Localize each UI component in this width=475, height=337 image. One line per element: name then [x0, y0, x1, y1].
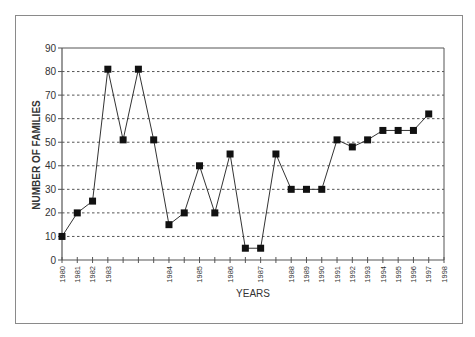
data-point-marker [211, 209, 218, 216]
data-point-marker [410, 127, 417, 134]
data-point-marker [334, 136, 341, 143]
data-point-marker [379, 127, 386, 134]
gridlines [62, 72, 444, 237]
y-tick-label: 80 [45, 66, 57, 77]
x-tick-label: 1995 [394, 266, 403, 283]
x-tick-label: 1987 [256, 266, 265, 283]
y-tick-label: 10 [45, 231, 57, 242]
x-tick-label: 1991 [333, 266, 342, 283]
x-tick-label: 1996 [409, 266, 418, 283]
data-point-marker [349, 143, 356, 150]
y-axis-title: NUMBER OF FAMILIES [31, 100, 42, 210]
data-point-marker [288, 186, 295, 193]
x-tick-label: 1984 [165, 266, 174, 283]
data-point-marker [303, 186, 310, 193]
y-tick-label: 90 [45, 43, 57, 54]
data-point-marker [59, 233, 66, 240]
x-tick-label: 1983 [104, 266, 113, 283]
x-tick-label: 1982 [88, 266, 97, 283]
line-chart: 0102030405060708090 19801981198219831984… [0, 0, 475, 337]
x-tick-label: 1981 [73, 266, 82, 283]
data-point-marker [120, 136, 127, 143]
y-axis-ticks: 0102030405060708090 [45, 43, 62, 266]
data-point-marker [425, 110, 432, 117]
data-point-marker [104, 66, 111, 73]
data-point-marker [181, 209, 188, 216]
data-point-marker [196, 162, 203, 169]
x-tick-label: 1986 [226, 266, 235, 283]
data-point-marker [150, 136, 157, 143]
data-point-marker [242, 245, 249, 252]
x-tick-label: 1993 [363, 266, 372, 283]
x-tick-label: 1989 [302, 266, 311, 283]
series-line [62, 69, 429, 248]
y-tick-label: 20 [45, 207, 57, 218]
data-point-marker [272, 151, 279, 158]
data-point-marker [165, 221, 172, 228]
data-point-marker [135, 66, 142, 73]
data-point-marker [89, 198, 96, 205]
y-tick-label: 40 [45, 160, 57, 171]
data-point-marker [257, 245, 264, 252]
x-tick-label: 1985 [195, 266, 204, 283]
x-tick-label: 1997 [424, 266, 433, 283]
y-tick-label: 60 [45, 113, 57, 124]
data-point-marker [74, 209, 81, 216]
y-tick-label: 50 [45, 137, 57, 148]
x-tick-label: 1992 [348, 266, 357, 283]
y-tick-label: 0 [50, 255, 56, 266]
x-tick-label: 1988 [287, 266, 296, 283]
data-point-marker [318, 186, 325, 193]
x-tick-label: 1990 [317, 266, 326, 283]
y-tick-label: 30 [45, 184, 57, 195]
data-markers [59, 66, 433, 252]
x-axis-ticks: 1980198119821983198419851986198719881989… [58, 257, 449, 283]
x-tick-label: 1994 [379, 266, 388, 283]
data-point-marker [227, 151, 234, 158]
x-tick-label: 1998 [440, 266, 449, 283]
y-tick-label: 70 [45, 90, 57, 101]
x-axis-title: YEARS [236, 288, 270, 299]
x-tick-label: 1980 [58, 266, 67, 283]
data-point-marker [395, 127, 402, 134]
data-point-marker [364, 136, 371, 143]
